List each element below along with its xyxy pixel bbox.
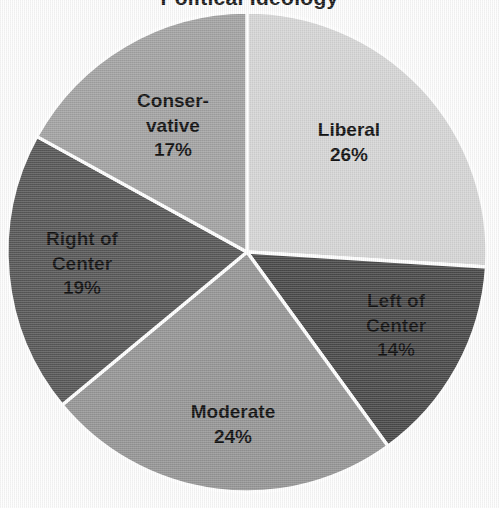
pie-chart-figure: Political Ideology Liberal26%Left of Cen…: [0, 0, 499, 508]
slice-label-moderate: Moderate24%: [191, 400, 275, 449]
slice-label-percent: 14%: [366, 338, 426, 363]
slice-label-percent: 24%: [191, 425, 275, 450]
slice-label-name: Left of Center: [366, 290, 426, 336]
slice-label-name: Right of Center: [46, 228, 118, 274]
slice-label-percent: 26%: [318, 143, 380, 168]
slice-label-percent: 17%: [137, 138, 209, 163]
slice-label-right-of-center: Right of Center19%: [46, 227, 118, 301]
slice-label-liberal: Liberal26%: [318, 118, 380, 167]
slice-label-percent: 19%: [46, 276, 118, 301]
slice-label-name: Liberal: [318, 119, 380, 140]
slice-label-name: Conser- vative: [137, 90, 209, 136]
slice-label-name: Moderate: [191, 401, 275, 422]
slice-label-conservative: Conser- vative17%: [137, 89, 209, 163]
slice-label-left-of-center: Left of Center14%: [366, 289, 426, 363]
